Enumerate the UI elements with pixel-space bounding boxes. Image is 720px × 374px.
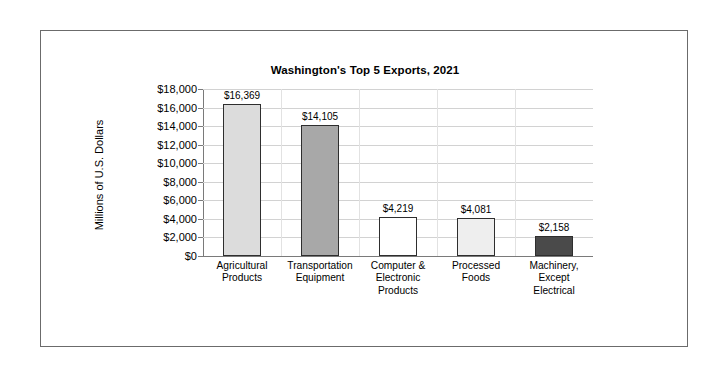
x-axis-category-labels: AgriculturalProductsTransportationEquipm… bbox=[203, 260, 593, 330]
y-axis-tick-mark bbox=[198, 200, 203, 201]
bar-value-label: $4,219 bbox=[383, 203, 414, 214]
y-axis-tick-mark bbox=[198, 89, 203, 90]
category-label-line: Computer & bbox=[371, 260, 425, 272]
x-axis-baseline bbox=[203, 256, 593, 257]
bar[interactable] bbox=[535, 236, 573, 256]
y-axis-tick-mark bbox=[198, 256, 203, 257]
bar[interactable] bbox=[379, 217, 417, 256]
gridline bbox=[203, 182, 593, 183]
y-axis-tick-label: $10,000 bbox=[119, 157, 197, 169]
gridline bbox=[203, 108, 593, 109]
y-axis-tick-mark bbox=[198, 237, 203, 238]
y-axis-tick-labels: $18,000$16,000$14,000$12,000$10,000$8,00… bbox=[117, 89, 197, 256]
y-axis-title: Millions of U.S. Dollars bbox=[93, 90, 105, 260]
plot-area: $16,369$14,105$4,219$4,081$2,158 bbox=[203, 89, 593, 256]
y-axis-tick-mark bbox=[198, 219, 203, 220]
y-axis-tick-mark bbox=[198, 108, 203, 109]
y-axis-tick-label: $8,000 bbox=[119, 176, 197, 188]
gridline bbox=[203, 89, 593, 90]
category-label: Computer &ElectronicProducts bbox=[371, 260, 425, 297]
category-label-line: Processed bbox=[452, 260, 500, 272]
y-axis-tick-mark bbox=[198, 145, 203, 146]
y-axis-tick-label: $16,000 bbox=[119, 102, 197, 114]
category-label-line: Products bbox=[371, 285, 425, 297]
category-label-line: Electrical bbox=[529, 285, 578, 297]
category-separator bbox=[437, 89, 438, 256]
chart-page: Washington's Top 5 Exports, 2021 Million… bbox=[0, 0, 720, 374]
bar-value-label: $14,105 bbox=[302, 111, 338, 122]
category-label-line: Electronic bbox=[371, 272, 425, 284]
category-label-line: Machinery, bbox=[529, 260, 578, 272]
y-axis-tick-label: $4,000 bbox=[119, 213, 197, 225]
category-label: TransportationEquipment bbox=[287, 260, 352, 285]
bar-value-label: $2,158 bbox=[539, 222, 570, 233]
gridline bbox=[203, 145, 593, 146]
bar-value-label: $16,369 bbox=[224, 90, 260, 101]
y-axis-tick-label: $2,000 bbox=[119, 231, 197, 243]
figure-frame: Washington's Top 5 Exports, 2021 Million… bbox=[40, 30, 688, 347]
bar[interactable] bbox=[301, 125, 339, 256]
category-label: Machinery,ExceptElectrical bbox=[529, 260, 578, 297]
y-axis-tick-label: $0 bbox=[119, 250, 197, 262]
category-separator bbox=[515, 89, 516, 256]
category-label-line: Except bbox=[529, 272, 578, 284]
category-separator bbox=[281, 89, 282, 256]
y-axis-tick-label: $6,000 bbox=[119, 194, 197, 206]
category-label-line: Products bbox=[217, 272, 268, 284]
y-axis-tick-label: $14,000 bbox=[119, 120, 197, 132]
category-label-line: Foods bbox=[452, 272, 500, 284]
category-label-line: Agricultural bbox=[217, 260, 268, 272]
category-label: AgriculturalProducts bbox=[217, 260, 268, 285]
category-label-line: Transportation bbox=[287, 260, 352, 272]
bar-value-label: $4,081 bbox=[461, 204, 492, 215]
y-axis-tick-mark bbox=[198, 126, 203, 127]
y-axis-tick-mark bbox=[198, 182, 203, 183]
category-label: ProcessedFoods bbox=[452, 260, 500, 285]
category-label-line: Equipment bbox=[287, 272, 352, 284]
category-separator bbox=[359, 89, 360, 256]
y-axis-tick-label: $18,000 bbox=[119, 83, 197, 95]
bar[interactable] bbox=[457, 218, 495, 256]
gridline bbox=[203, 200, 593, 201]
bar[interactable] bbox=[223, 104, 261, 256]
gridline bbox=[203, 126, 593, 127]
gridline bbox=[203, 163, 593, 164]
chart-title: Washington's Top 5 Exports, 2021 bbox=[41, 64, 689, 76]
y-axis-tick-label: $12,000 bbox=[119, 139, 197, 151]
y-axis-tick-mark bbox=[198, 163, 203, 164]
